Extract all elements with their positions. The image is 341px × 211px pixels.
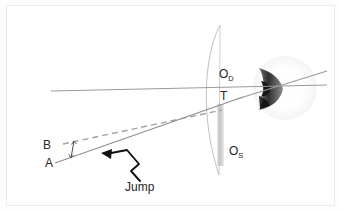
label-jump: Jump <box>125 181 154 193</box>
jump-callout-arrowhead-icon <box>101 149 112 159</box>
eye-globe <box>253 56 317 120</box>
figure-canvas: OD T OS B A Jump <box>0 0 341 211</box>
label-point-b: B <box>43 139 51 151</box>
bifocal-segment <box>217 104 224 166</box>
label-optical-center-segment: OS <box>229 145 243 160</box>
ray-dashed-line <box>63 110 222 144</box>
label-optical-center-distance: OD <box>219 68 234 83</box>
figure-frame: OD T OS B A Jump <box>6 5 335 206</box>
label-point-a: A <box>45 157 53 169</box>
optical-diagram-svg <box>7 6 335 206</box>
label-segment-top: T <box>220 90 227 102</box>
